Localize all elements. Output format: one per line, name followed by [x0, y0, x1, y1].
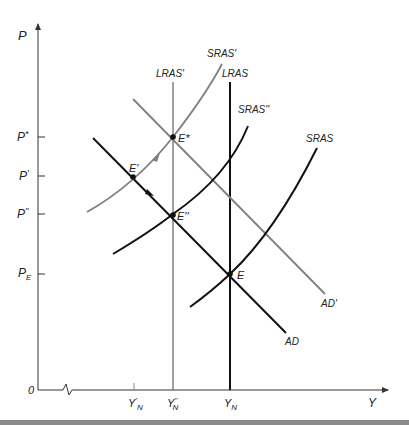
sras-prime-label: SRAS'	[207, 48, 237, 59]
point-e	[227, 271, 233, 277]
arrow-along-ad	[145, 189, 154, 196]
lras-label: LRAS	[222, 68, 248, 79]
tick-label-p-double-prime: P''	[17, 206, 29, 221]
y-axis-label: P	[18, 28, 27, 43]
point-e-double-prime	[170, 212, 176, 218]
ad-curve	[93, 138, 286, 333]
ad-prime-label: AD'	[320, 298, 338, 309]
y-ticks	[38, 137, 45, 274]
bottom-border-bar	[0, 420, 409, 425]
sras-double-prime-curve	[113, 126, 248, 254]
tick-label-p-prime: P'	[19, 168, 29, 183]
lras-prime-label: LRAS'	[156, 68, 185, 79]
tick-label-yn: YN	[224, 397, 237, 412]
label-e-star: E*	[178, 132, 190, 144]
point-e-star	[170, 134, 176, 140]
point-e-prime	[130, 174, 136, 180]
tick-label-p-star: P*	[17, 129, 29, 144]
sras-curve	[190, 148, 317, 307]
label-e-prime: E'	[129, 162, 139, 174]
tick-label-p-e: PE	[18, 266, 32, 282]
sras-double-prime-label: SRAS''	[238, 104, 270, 115]
origin-label: 0	[28, 384, 35, 396]
tick-label-yn-double-prime: Y''N	[167, 396, 178, 412]
label-e: E	[237, 269, 245, 281]
x-axis-label: Y	[368, 396, 377, 410]
label-e-double-prime: E''	[177, 210, 189, 222]
sras-label: SRAS	[306, 133, 334, 144]
x-axis	[38, 384, 388, 395]
tick-label-yn-prime: Y'N	[128, 396, 143, 412]
ad-label: AD	[284, 336, 299, 347]
